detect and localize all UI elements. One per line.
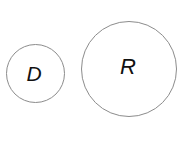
circle-shape-d[interactable]: D: [6, 44, 65, 103]
circle-shape-r[interactable]: R: [81, 21, 177, 117]
diagram-canvas: D R: [0, 0, 181, 155]
circle-label-r: R: [120, 56, 136, 78]
circle-label-d: D: [26, 63, 41, 84]
